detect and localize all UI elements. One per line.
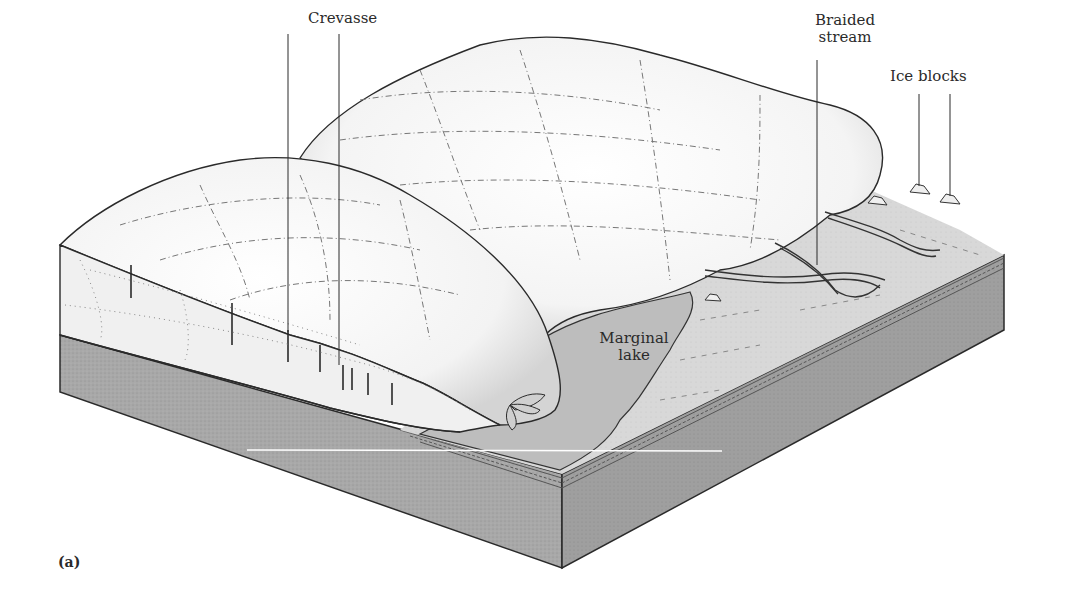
braided-stream-label-line1: Braided [805, 12, 885, 29]
marginal-lake-label-line2: lake [578, 347, 690, 364]
crevasse-label: Crevasse [308, 10, 377, 27]
glacier-block-diagram [0, 0, 1069, 613]
braided-stream-label-line2: stream [805, 29, 885, 46]
panel-label: (a) [58, 554, 80, 571]
marginal-lake-label-line1: Marginal [578, 330, 690, 347]
scan-artifact-line [247, 450, 722, 451]
ice-blocks-label: Ice blocks [890, 68, 967, 85]
braided-stream-label: Braided stream [805, 12, 885, 46]
marginal-lake-label: Marginal lake [578, 330, 690, 364]
